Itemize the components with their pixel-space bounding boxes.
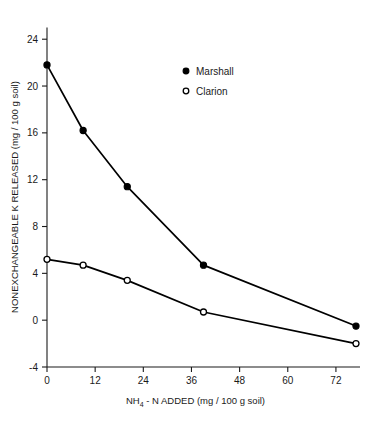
x-tick-label: 12 xyxy=(90,375,102,386)
data-point-clarion-1 xyxy=(80,262,86,268)
chart-axes xyxy=(47,28,360,368)
chart-figure: -4048121620240122436486072 MarshallClari… xyxy=(0,0,381,425)
data-point-clarion-4 xyxy=(353,341,359,347)
y-axis-title: NONEXCHANGEABLE K RELEASED (mg / 100 g s… xyxy=(9,81,20,313)
data-point-marshall-2 xyxy=(124,184,130,190)
x-tick-label: 48 xyxy=(234,375,246,386)
x-axis-title: NH4 - N ADDED (mg / 100 g soil) xyxy=(126,395,265,408)
legend-marker-marshall xyxy=(183,68,189,74)
y-tick-label: 16 xyxy=(27,127,39,138)
x-tick-label: 24 xyxy=(138,375,150,386)
axis-ticks xyxy=(42,39,336,372)
x-axis-title-post: - N ADDED (mg / 100 g soil) xyxy=(144,395,265,406)
series-line-clarion xyxy=(47,259,356,343)
y-tick-label: 20 xyxy=(27,81,39,92)
series-line-marshall xyxy=(47,65,356,326)
x-axis-title-pre: NH xyxy=(126,395,140,406)
data-point-clarion-2 xyxy=(124,277,130,283)
y-tick-label: 8 xyxy=(32,221,38,232)
axis-tick-labels: -4048121620240122436486072 xyxy=(27,34,342,386)
data-point-marshall-4 xyxy=(353,323,359,329)
x-tick-label: 72 xyxy=(330,375,342,386)
legend-label-marshall: Marshall xyxy=(196,66,234,77)
data-point-clarion-0 xyxy=(44,256,50,262)
x-tick-label: 60 xyxy=(282,375,294,386)
y-tick-label: 12 xyxy=(27,174,39,185)
y-tick-label: -4 xyxy=(29,362,38,373)
legend-marker-clarion xyxy=(183,88,189,94)
legend-label-clarion: Clarion xyxy=(196,86,228,97)
data-point-clarion-3 xyxy=(201,309,207,315)
y-tick-label: 0 xyxy=(32,315,38,326)
data-series xyxy=(44,62,359,347)
x-tick-label: 0 xyxy=(44,375,50,386)
data-point-marshall-0 xyxy=(44,62,50,68)
x-tick-label: 36 xyxy=(186,375,198,386)
y-tick-label: 4 xyxy=(32,268,38,279)
y-tick-label: 24 xyxy=(27,34,39,45)
line-chart: -4048121620240122436486072 MarshallClari… xyxy=(0,0,381,425)
chart-legend: MarshallClarion xyxy=(183,66,234,97)
data-point-marshall-1 xyxy=(80,127,86,133)
data-point-marshall-3 xyxy=(200,262,206,268)
